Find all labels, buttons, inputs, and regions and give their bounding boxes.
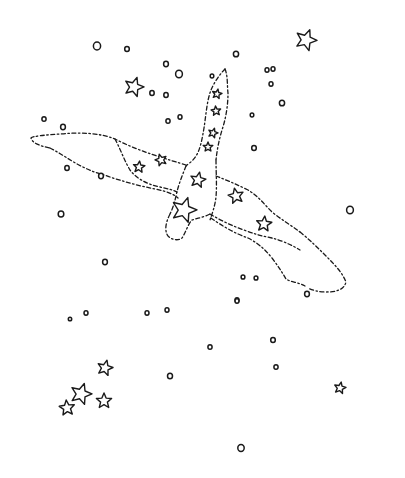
small-star-dot (250, 113, 254, 117)
small-star-dot (65, 166, 69, 171)
body-large-star-icon (173, 198, 197, 223)
small-star-dot (99, 173, 104, 178)
bg-star-top-left-icon (126, 77, 144, 96)
left-wing-inner (115, 139, 177, 192)
body-right (210, 160, 216, 220)
small-star-dot (150, 91, 154, 96)
small-star-dot (269, 82, 273, 86)
small-star-dot (347, 206, 354, 213)
left-wing-star-1-icon (134, 161, 145, 172)
small-star-dot (145, 311, 149, 315)
right-wing-lower (210, 214, 300, 250)
small-star-dot (42, 117, 46, 122)
bg-star-top-right-icon (297, 30, 317, 51)
small-star-dot (241, 275, 245, 279)
small-star-dot (168, 373, 173, 379)
small-star-dot (233, 51, 238, 57)
small-star-dot (176, 70, 183, 77)
body-star-icon (191, 172, 206, 187)
small-star-dot (265, 68, 269, 72)
small-star-dot (166, 119, 170, 124)
small-star-dot (68, 317, 71, 321)
stars (59, 30, 346, 415)
small-star-dot (165, 308, 169, 312)
bg-star-cluster-4-icon (59, 400, 74, 415)
left-wing-star-2-icon (155, 154, 166, 165)
neck-star-1-icon (213, 89, 222, 98)
small-star-dot (178, 115, 182, 119)
small-star-dot (125, 46, 130, 51)
right-wing-inner (211, 218, 305, 286)
bg-star-right-icon (335, 382, 346, 393)
small-star-dot (274, 365, 278, 370)
small-star-dot (61, 124, 66, 129)
neck-star-3-icon (209, 128, 218, 138)
small-star-dot (254, 276, 258, 280)
right-wing-star-2-icon (257, 216, 272, 231)
small-star-dot (279, 100, 284, 106)
bg-star-cluster-2-icon (72, 384, 92, 405)
background-dots (42, 42, 354, 451)
small-star-dot (210, 74, 214, 78)
neck-star-4-icon (203, 142, 213, 151)
constellation-illustration (0, 0, 405, 478)
bg-star-cluster-3-icon (96, 393, 111, 408)
small-star-dot (164, 61, 169, 66)
neck-star-2-icon (211, 106, 221, 115)
small-star-dot (235, 299, 239, 303)
small-star-dot (238, 444, 244, 451)
small-star-dot (271, 67, 275, 71)
small-star-dot (93, 42, 100, 50)
small-star-dot (208, 345, 212, 350)
small-star-dot (305, 291, 310, 296)
swan-outline (31, 69, 346, 292)
bg-star-cluster-1-icon (98, 360, 113, 375)
right-wing-star-1-icon (228, 188, 243, 203)
small-star-dot (58, 211, 64, 217)
small-star-dot (103, 259, 108, 264)
small-star-dot (252, 145, 257, 150)
right-wing-tip (300, 232, 346, 292)
small-star-dot (271, 337, 276, 342)
small-star-dot (164, 93, 168, 98)
small-star-dot (84, 311, 88, 315)
